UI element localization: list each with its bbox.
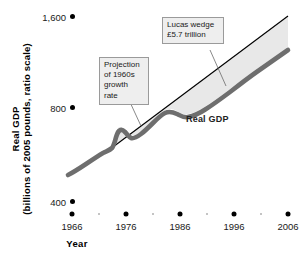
- x-tick-label-1986: 1986: [169, 221, 190, 232]
- x-tick-dot-1996: [232, 212, 237, 217]
- x-tick-dot-1966: [70, 212, 75, 217]
- real-gdp-series-label: Real GDP: [186, 114, 229, 124]
- chart-plot-area: [0, 0, 307, 260]
- x-tick-dot-1971: [98, 213, 100, 215]
- x-tick-dot-2001: [260, 213, 262, 215]
- lucas-wedge-callout: Lucas wedge £5.7 trillion: [162, 17, 224, 44]
- y-tick-400: 400: [26, 197, 66, 208]
- y-tick-800-dot: [70, 105, 75, 110]
- chart-figure: Real GDP (billions of 2005 pounds, ratio…: [0, 0, 307, 260]
- x-tick-dot-2006: [286, 212, 291, 217]
- y-tick-800-label: 800: [50, 103, 66, 114]
- x-tick-dot-1976: [124, 212, 129, 217]
- x-tick-label-2006: 2006: [277, 221, 298, 232]
- y-tick-1600-dot: [70, 14, 75, 19]
- y-tick-1600: 1,600: [26, 12, 66, 23]
- y-tick-1600-label: 1,600: [42, 12, 66, 23]
- x-tick-label-1976: 1976: [115, 221, 136, 232]
- y-tick-400-dot: [70, 199, 75, 204]
- y-tick-400-label: 400: [50, 197, 66, 208]
- x-tick-label-1996: 1996: [223, 221, 244, 232]
- projection-callout: Projection of 1960s growth rate: [99, 57, 149, 105]
- x-axis-title: Year: [66, 238, 87, 249]
- x-tick-dot-1991: [206, 213, 208, 215]
- x-tick-label-1966: 1966: [61, 221, 82, 232]
- y-tick-800: 800: [26, 103, 66, 114]
- x-tick-dot-1986: [178, 212, 183, 217]
- x-tick-dot-1981: [152, 213, 154, 215]
